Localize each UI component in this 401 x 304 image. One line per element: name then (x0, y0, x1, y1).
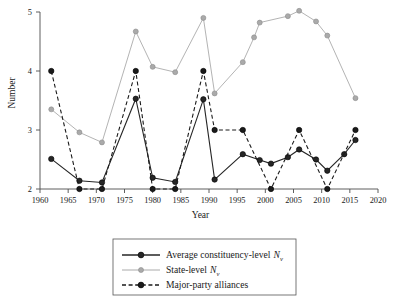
data-point (212, 177, 217, 182)
data-point (150, 64, 155, 69)
data-point (133, 29, 138, 34)
data-point (49, 68, 54, 73)
y-tick-label: 2 (28, 185, 32, 194)
data-point (297, 8, 302, 13)
data-point (49, 107, 54, 112)
data-point (296, 127, 301, 132)
series-solid (49, 96, 359, 185)
data-point (240, 60, 245, 65)
x-tick-label: 1965 (60, 196, 77, 205)
x-tick-label: 2010 (313, 196, 330, 205)
data-point (313, 157, 318, 162)
x-tick-label: 1980 (144, 196, 161, 205)
figure-container: 1960196519701975198019851990199520002005… (0, 0, 401, 304)
x-axis-ticks: 1960196519701975198019851990199520002005… (32, 189, 387, 205)
data-point (99, 140, 104, 145)
data-point (77, 186, 82, 191)
chart-legend: Average constituency-levelNvState-levelN… (113, 239, 296, 295)
data-point (353, 137, 358, 142)
data-point (257, 157, 262, 162)
data-point (240, 127, 245, 132)
data-series-layer (49, 8, 359, 191)
series-line (51, 11, 355, 143)
x-tick-label: 1975 (116, 196, 133, 205)
legend-marker-icon (138, 252, 144, 258)
data-point (240, 151, 245, 156)
data-point (296, 147, 301, 152)
x-tick-label: 2020 (370, 196, 387, 205)
data-point (133, 68, 138, 73)
data-point (268, 161, 273, 166)
y-axis-title: Number (7, 63, 17, 123)
x-tick-label: 1970 (88, 196, 105, 205)
x-tick-label: 1985 (172, 196, 189, 205)
x-tick-label: 1990 (201, 196, 218, 205)
data-point (325, 168, 330, 173)
data-point (77, 130, 82, 135)
x-tick-label: 2000 (257, 196, 274, 205)
data-point (99, 186, 104, 191)
legend-label: State-levelNv (166, 264, 219, 276)
x-tick-label: 1995 (229, 196, 246, 205)
legend-label: Major-party alliances (166, 279, 248, 290)
axis-lines (40, 12, 378, 189)
data-point (212, 127, 217, 132)
x-tick-label: 2005 (285, 196, 302, 205)
x-axis-title: Year (0, 210, 401, 220)
data-point (49, 156, 54, 161)
x-tick-label: 2015 (341, 196, 358, 205)
y-tick-label: 3 (28, 126, 32, 135)
data-point (257, 20, 262, 25)
data-point (314, 19, 319, 24)
data-point (252, 35, 257, 40)
legend-label: Average constituency-levelNv (166, 249, 283, 261)
data-point (173, 186, 178, 191)
series-dashed (49, 68, 359, 191)
data-point (201, 97, 206, 102)
data-point (353, 96, 358, 101)
series-solid (49, 8, 358, 145)
data-point (133, 96, 138, 101)
data-point (353, 127, 358, 132)
series-line (51, 71, 355, 189)
data-point (285, 154, 290, 159)
legend-marker-icon (138, 282, 144, 288)
data-point (173, 70, 178, 75)
data-point (201, 68, 206, 73)
data-point (325, 186, 330, 191)
y-axis-ticks: 2345 (28, 8, 40, 194)
data-point (212, 91, 217, 96)
data-point (268, 186, 273, 191)
y-tick-label: 5 (28, 8, 32, 17)
line-chart: 1960196519701975198019851990199520002005… (0, 0, 401, 304)
data-point (325, 33, 330, 38)
legend-marker-icon (139, 268, 144, 273)
y-tick-label: 4 (28, 67, 33, 76)
x-tick-label: 1960 (32, 196, 49, 205)
data-point (285, 14, 290, 19)
data-point (150, 186, 155, 191)
data-point (201, 15, 206, 20)
